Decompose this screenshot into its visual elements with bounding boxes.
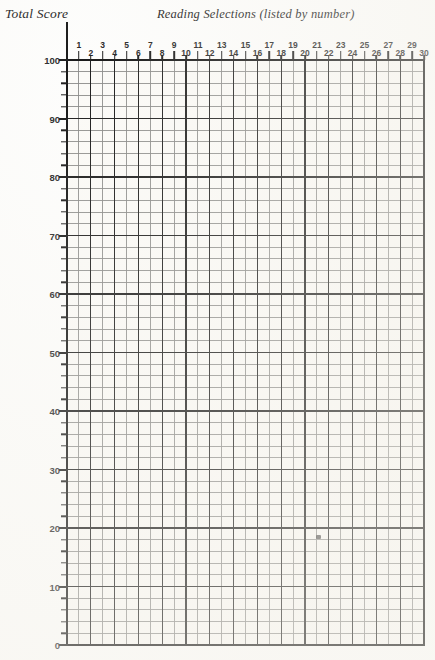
x-axis-tick xyxy=(340,51,342,60)
x-axis-label: 27 xyxy=(384,40,393,50)
y-axis-tick-minor xyxy=(61,305,68,306)
y-axis-tick-minor xyxy=(61,504,68,505)
y-axis-tick-minor xyxy=(61,94,68,95)
y-axis-tick-minor xyxy=(61,200,68,201)
y-axis-label-group: 0102030405060708090100 xyxy=(28,0,60,660)
y-axis-tick-major xyxy=(59,644,68,646)
x-axis-tick xyxy=(304,55,306,60)
x-axis-tick xyxy=(316,51,318,60)
x-axis-label: 15 xyxy=(241,40,250,50)
y-axis-tick-minor xyxy=(61,633,68,634)
y-axis-tick-minor xyxy=(61,621,68,622)
y-axis-tick-minor xyxy=(61,492,68,493)
x-axis-line xyxy=(66,644,425,646)
x-axis-tick xyxy=(78,51,80,60)
y-axis-tick-minor xyxy=(61,340,68,341)
x-axis-tick xyxy=(257,55,259,60)
x-axis-tick xyxy=(221,51,223,60)
x-axis-tick xyxy=(245,51,247,60)
y-axis-tick-minor xyxy=(61,317,68,318)
y-axis-tick-minor xyxy=(61,422,68,423)
y-axis-tick-minor xyxy=(61,445,68,446)
y-axis-tick-major xyxy=(59,235,68,237)
x-axis-label: 11 xyxy=(193,40,202,50)
y-axis-tick-minor xyxy=(61,106,68,107)
x-axis-label: 19 xyxy=(288,40,297,50)
y-axis-tick-minor xyxy=(61,539,68,540)
y-axis-tick-major xyxy=(59,293,68,295)
reading-progress-chart-page: Total Score Reading Selections (listed b… xyxy=(0,0,435,660)
plot-area xyxy=(67,60,424,645)
x-axis-tick xyxy=(233,55,235,60)
y-axis-tick-major xyxy=(59,118,68,120)
x-axis-tick xyxy=(292,51,294,60)
x-axis-tick xyxy=(161,55,163,60)
y-axis-tick-minor xyxy=(61,129,68,130)
x-axis-tick xyxy=(352,55,354,60)
x-axis-tick xyxy=(388,51,390,60)
y-axis-tick-minor xyxy=(61,387,68,388)
x-axis-tick xyxy=(364,51,366,60)
y-axis-tick-minor xyxy=(61,141,68,142)
x-axis-tick xyxy=(411,51,413,60)
x-axis-label: 25 xyxy=(360,40,369,50)
y-axis-tick-minor xyxy=(61,223,68,224)
y-axis-tick-major xyxy=(59,176,68,178)
x-axis-tick xyxy=(114,55,116,60)
x-axis-label: 7 xyxy=(148,40,153,50)
x-axis-tick xyxy=(328,55,330,60)
x-axis-tick xyxy=(280,55,282,60)
y-axis-tick-minor xyxy=(61,480,68,481)
y-axis-tick-minor xyxy=(61,328,68,329)
y-axis-tick-minor xyxy=(61,83,68,84)
y-axis-tick-minor xyxy=(61,211,68,212)
x-axis-label: 21 xyxy=(312,40,321,50)
x-axis-tick xyxy=(376,55,378,60)
axis-line-right xyxy=(423,59,425,646)
y-axis-tick-minor xyxy=(61,457,68,458)
x-axis-tick xyxy=(102,51,104,60)
y-axis-tick-major xyxy=(59,352,68,354)
y-axis-tick-minor xyxy=(61,270,68,271)
x-axis-label: 1 xyxy=(77,40,82,50)
y-axis-tick-major xyxy=(59,59,68,61)
x-axis-tick xyxy=(90,55,92,60)
y-axis-tick-major xyxy=(59,469,68,471)
x-axis-tick xyxy=(423,55,425,60)
y-axis-tick-minor xyxy=(61,71,68,72)
chart-title: Reading Selections (listed by number) xyxy=(157,7,355,22)
y-axis-line xyxy=(66,22,68,646)
y-axis-tick-minor xyxy=(61,516,68,517)
y-axis-tick-major xyxy=(59,410,68,412)
y-axis-tick-minor xyxy=(61,597,68,598)
y-axis-tick-minor xyxy=(61,363,68,364)
y-axis-tick-minor xyxy=(61,434,68,435)
x-axis-label: 23 xyxy=(336,40,345,50)
ink-smudge-artifact xyxy=(316,535,321,539)
x-axis-tick xyxy=(173,51,175,60)
y-axis-tick-minor xyxy=(61,188,68,189)
y-axis-tick-minor xyxy=(61,258,68,259)
x-axis-label: 3 xyxy=(100,40,105,50)
y-axis-tick-minor xyxy=(61,375,68,376)
y-axis-tick-minor xyxy=(61,609,68,610)
x-axis-label: 9 xyxy=(172,40,177,50)
y-axis-tick-minor xyxy=(61,282,68,283)
x-axis-tick xyxy=(126,51,128,60)
x-axis-label: 13 xyxy=(217,40,226,50)
x-axis-tick xyxy=(209,55,211,60)
y-axis-tick-major xyxy=(59,586,68,588)
y-axis-tick-minor xyxy=(61,153,68,154)
y-axis-tick-minor xyxy=(61,551,68,552)
x-axis-label: 17 xyxy=(265,40,274,50)
y-axis-tick-minor xyxy=(61,574,68,575)
y-axis-tick-minor xyxy=(61,165,68,166)
x-axis-tick xyxy=(269,51,271,60)
y-axis-label: 100 xyxy=(44,55,60,66)
grid-lines xyxy=(67,60,424,645)
x-axis-label: 5 xyxy=(124,40,129,50)
x-axis-tick xyxy=(185,55,187,60)
x-axis-tick xyxy=(138,55,140,60)
y-axis-tick-major xyxy=(59,527,68,529)
x-axis-label: 29 xyxy=(407,40,416,50)
